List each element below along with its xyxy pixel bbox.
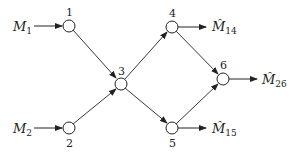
output-subscript-m15: 15: [225, 128, 237, 138]
input-label-m1: M1: [12, 19, 32, 36]
output-label-m14: M̂14: [211, 19, 237, 36]
node-6: [217, 73, 229, 85]
node-label-2: 2: [66, 137, 73, 150]
node-1: [63, 20, 75, 32]
output-subscript-m26: 26: [275, 79, 287, 89]
edge-5-6: [176, 84, 218, 124]
input-subscript-m1: 1: [26, 26, 32, 36]
input-symbol-m2: M: [12, 121, 27, 136]
edge-2-3: [73, 89, 116, 124]
output-symbol-m26: M̂: [261, 72, 276, 87]
output-subscript-m14: 14: [225, 26, 237, 36]
input-label-m2: M2: [12, 121, 32, 138]
network-diagram: 1 2 3 4 5 6 M1 M2 M̂14 M̂26 M̂15: [0, 0, 293, 156]
output-label-m15: M̂15: [211, 121, 237, 138]
node-label-6: 6: [220, 59, 227, 72]
edge-3-5: [125, 88, 167, 123]
node-label-5: 5: [169, 137, 176, 150]
output-symbol-m14: M̂: [211, 19, 226, 34]
node-5: [166, 122, 178, 134]
output-symbol-m15: M̂: [211, 121, 226, 136]
node-label-4: 4: [169, 7, 176, 20]
edge-1-3: [73, 30, 116, 78]
output-label-m26: M̂26: [261, 72, 287, 89]
node-label-1: 1: [66, 6, 73, 19]
node-3: [115, 78, 127, 90]
node-label-3: 3: [118, 65, 125, 78]
edge-4-6: [176, 31, 218, 74]
edge-3-4: [125, 32, 167, 79]
node-4: [166, 21, 178, 33]
input-symbol-m1: M: [12, 19, 27, 34]
input-subscript-m2: 2: [26, 128, 32, 138]
node-2: [63, 122, 75, 134]
